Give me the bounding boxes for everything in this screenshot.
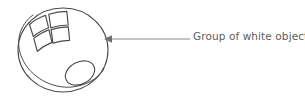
diagram-graphics	[0, 0, 305, 100]
annotation-leader	[104, 35, 190, 42]
window-pane-top-right	[49, 11, 68, 28]
annotation-label: Group of white objects	[193, 30, 305, 43]
window-pane-bottom-right	[51, 27, 70, 43]
diagram-canvas: Group of white objects	[0, 0, 305, 100]
